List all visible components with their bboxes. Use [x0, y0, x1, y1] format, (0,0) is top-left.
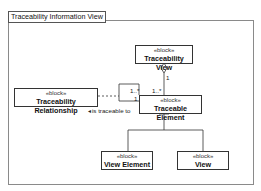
stereotype-label: «block» — [140, 97, 201, 104]
association-multiplicity-b: 1 — [134, 95, 137, 102]
block-name: Traceable Element — [140, 104, 201, 122]
stereotype-label: «block» — [178, 153, 228, 160]
block-view-element[interactable]: «block» View Element — [101, 151, 153, 170]
stereotype-label: «block» — [15, 90, 97, 97]
aggregation-target-multiplicity: 1..* — [152, 87, 161, 94]
stereotype-label: «block» — [136, 47, 192, 54]
association-name-label: ◄is traceable to — [87, 107, 130, 115]
block-name: Traceability View — [136, 54, 192, 72]
block-name: View Element — [102, 160, 152, 169]
block-view[interactable]: «block» View — [177, 151, 229, 170]
block-traceability-view[interactable]: «block» Traceability View — [135, 45, 193, 64]
aggregation-source-multiplicity: 1 — [166, 74, 169, 81]
block-traceability-relationship[interactable]: «block» Traceability Relationship — [14, 88, 98, 107]
association-multiplicity-a: 1..* — [130, 87, 139, 94]
stereotype-label: «block» — [102, 153, 152, 160]
block-name: View — [178, 160, 228, 169]
block-name: Traceability Relationship — [15, 97, 97, 115]
block-traceable-element[interactable]: «block» Traceable Element — [139, 95, 202, 114]
